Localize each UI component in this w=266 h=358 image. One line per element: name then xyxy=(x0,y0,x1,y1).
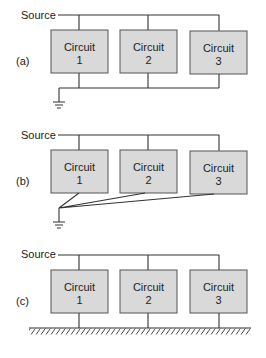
ground-bus xyxy=(59,73,219,102)
circuit-box-3: Circuit 3 xyxy=(190,31,247,74)
circuit-box-2: Circuit 2 xyxy=(120,30,177,73)
circuit-box-2: Circuit 2 xyxy=(120,270,177,313)
svg-text:1: 1 xyxy=(76,294,82,306)
panel-a: Source (a) Circuit 1 Circuit 2 Circuit 3 xyxy=(16,9,247,108)
svg-text:2: 2 xyxy=(145,174,151,186)
svg-text:Circuit: Circuit xyxy=(203,162,234,174)
panel-label: (c) xyxy=(16,295,29,307)
source-bus xyxy=(58,255,219,270)
svg-text:3: 3 xyxy=(215,175,221,187)
circuit-box-2: Circuit 2 xyxy=(120,150,177,193)
svg-text:Circuit: Circuit xyxy=(64,41,95,53)
svg-text:Circuit: Circuit xyxy=(203,42,234,54)
svg-text:Circuit: Circuit xyxy=(64,281,95,293)
svg-text:3: 3 xyxy=(215,294,221,306)
svg-text:Circuit: Circuit xyxy=(133,281,164,293)
grounding-diagram: Source (a) Circuit 1 Circuit 2 Circuit 3… xyxy=(0,0,266,358)
ground-drops xyxy=(79,313,219,328)
source-label: Source xyxy=(21,9,56,21)
svg-text:Circuit: Circuit xyxy=(64,161,95,173)
svg-text:2: 2 xyxy=(145,54,151,66)
svg-text:1: 1 xyxy=(76,54,82,66)
panel-label: (b) xyxy=(16,175,29,187)
circuit-box-3: Circuit 3 xyxy=(190,151,247,194)
svg-text:3: 3 xyxy=(215,55,221,67)
source-label: Source xyxy=(21,248,56,260)
svg-text:1: 1 xyxy=(76,174,82,186)
source-label: Source xyxy=(21,129,56,141)
circuit-box-1: Circuit 1 xyxy=(51,30,108,73)
circuit-box-3: Circuit 3 xyxy=(190,270,247,313)
circuit-box-1: Circuit 1 xyxy=(51,270,108,313)
ground-plane-icon xyxy=(29,328,251,335)
panel-label: (a) xyxy=(16,55,29,67)
panel-b: Source (b) Circuit 1 Circuit 2 Circuit 3 xyxy=(16,129,247,228)
ground-icon xyxy=(53,222,65,228)
svg-text:Circuit: Circuit xyxy=(133,161,164,173)
circuit-box-1: Circuit 1 xyxy=(51,150,108,193)
svg-text:Circuit: Circuit xyxy=(133,41,164,53)
svg-text:Circuit: Circuit xyxy=(203,281,234,293)
source-bus xyxy=(58,15,219,31)
svg-text:2: 2 xyxy=(145,294,151,306)
panel-c: Source (c) Circuit 1 Circuit 2 Circuit 3 xyxy=(16,248,251,335)
ground-icon xyxy=(53,102,65,108)
star-ground-wires xyxy=(59,193,214,222)
source-bus xyxy=(58,135,219,151)
